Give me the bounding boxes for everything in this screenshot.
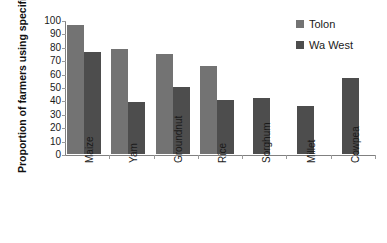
x-axis-tick-mark [331, 155, 332, 159]
y-axis-tick-label: 40 [33, 96, 61, 106]
x-axis-tick-mark [375, 155, 376, 159]
bar-group [198, 20, 242, 154]
x-axis-tick-mark [154, 155, 155, 159]
y-axis-tick-label: 90 [33, 29, 61, 39]
y-axis-tick-mark [62, 155, 66, 156]
legend-item-wa-west: Wa West [296, 39, 353, 51]
x-axis-label-maize: Maize [84, 136, 95, 163]
bar-maize-tolon [67, 25, 84, 154]
legend-label-wa-west: Wa West [309, 39, 353, 51]
bar-groundnut-tolon [156, 54, 173, 155]
bar-yam-tolon [111, 49, 128, 154]
y-axis-title: Proportion of farmers using specific cro… [16, 3, 29, 173]
x-axis-tick-mark [286, 155, 287, 159]
y-axis-tick-label: 80 [33, 43, 61, 53]
x-axis-label-yam: Yam [128, 143, 139, 163]
x-axis-tick-mark [198, 155, 199, 159]
x-axis-label-millet: Millet [306, 140, 317, 163]
x-axis-tick-mark [242, 155, 243, 159]
bar-group [65, 20, 109, 154]
y-axis-tick-label: 60 [33, 70, 61, 80]
legend-swatch-tolon-icon [296, 20, 304, 28]
y-axis-tick-label: 50 [33, 83, 61, 93]
legend-item-tolon: Tolon [296, 18, 353, 30]
x-axis-label-groundnut: Groundnut [173, 116, 184, 163]
bar-rice-tolon [200, 66, 217, 154]
x-axis-label-sorghum: Sorghum [261, 122, 272, 163]
legend-swatch-wa-west-icon [296, 41, 304, 49]
y-axis-tick-label: 10 [33, 137, 61, 147]
chart-legend: Tolon Wa West [296, 18, 353, 60]
y-axis-tick-label: 20 [33, 123, 61, 133]
x-axis-label-rice: Rice [217, 143, 228, 163]
bar-chart-figure: Proportion of farmers using specific cro… [0, 0, 387, 243]
x-axis-label-cowpea: Cowpea [350, 126, 361, 163]
y-axis-tick-label: 0 [33, 150, 61, 160]
y-axis-tick-label: 100 [33, 16, 61, 26]
x-axis-tick-mark [109, 155, 110, 159]
y-axis-tick-label: 70 [33, 56, 61, 66]
bar-group [109, 20, 153, 154]
legend-label-tolon: Tolon [309, 18, 335, 30]
y-axis-tick-label: 30 [33, 110, 61, 120]
